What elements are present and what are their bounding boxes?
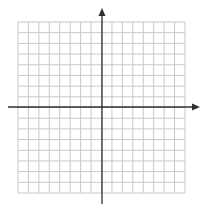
axes (8, 8, 200, 204)
coordinate-plane (0, 0, 208, 211)
y-axis-arrow-icon (99, 8, 106, 16)
x-axis-arrow-icon (192, 104, 200, 111)
